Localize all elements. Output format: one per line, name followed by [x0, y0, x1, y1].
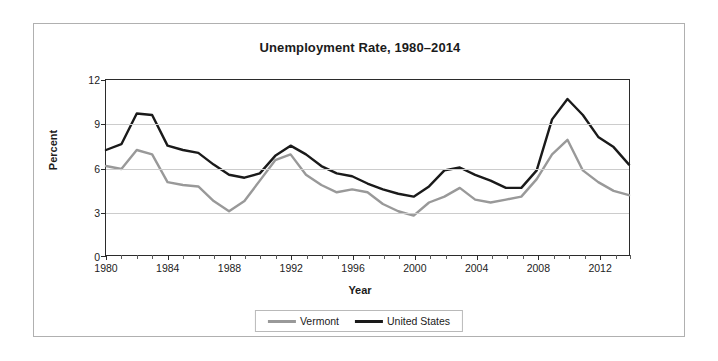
- x-tick-mark-2008: [538, 255, 539, 260]
- x-tick-label-1992: 1992: [280, 262, 303, 274]
- chart-title: Unemployment Rate, 1980–2014: [34, 40, 686, 55]
- y-tick-mark-12: [101, 80, 106, 81]
- x-tick-mark-2010: [569, 255, 570, 259]
- x-tick-mark-1996: [353, 255, 354, 260]
- x-tick-mark-2013: [616, 255, 617, 259]
- x-tick-mark-2014: [630, 255, 631, 259]
- y-gridline-9: [106, 124, 629, 125]
- y-tick-mark-6: [101, 169, 106, 170]
- x-tick-label-1984: 1984: [156, 262, 179, 274]
- x-tick-mark-1987: [214, 255, 215, 259]
- x-tick-mark-1993: [307, 255, 308, 259]
- y-gridline-3: [106, 213, 629, 214]
- x-tick-mark-2009: [554, 255, 555, 259]
- y-tick-label-9: 9: [94, 118, 100, 130]
- x-tick-mark-1997: [369, 255, 370, 259]
- x-tick-mark-1992: [291, 255, 292, 260]
- legend-label: United States: [387, 315, 450, 327]
- x-tick-mark-2004: [477, 255, 478, 260]
- plot-area: 0369121980198419881992199620002004200820…: [105, 79, 630, 256]
- x-tick-mark-1980: [106, 255, 107, 260]
- x-tick-mark-2002: [446, 255, 447, 259]
- x-tick-label-2008: 2008: [527, 262, 550, 274]
- x-tick-mark-2011: [585, 255, 586, 259]
- x-tick-mark-2003: [461, 255, 462, 259]
- y-tick-mark-3: [101, 213, 106, 214]
- x-tick-label-2004: 2004: [465, 262, 488, 274]
- x-tick-mark-2007: [523, 255, 524, 259]
- x-tick-mark-1995: [338, 255, 339, 259]
- legend-entry-united-states[interactable]: United States: [355, 315, 450, 327]
- y-tick-label-3: 3: [94, 207, 100, 219]
- x-tick-mark-2006: [507, 255, 508, 259]
- x-tick-mark-2012: [600, 255, 601, 260]
- y-gridline-6: [106, 169, 629, 170]
- legend-entry-vermont[interactable]: Vermont: [268, 315, 339, 327]
- y-tick-label-12: 12: [88, 74, 100, 86]
- chart-legend: VermontUnited States: [255, 310, 463, 332]
- x-tick-label-1996: 1996: [341, 262, 364, 274]
- x-axis-title: Year: [34, 284, 686, 296]
- x-tick-mark-1985: [183, 255, 184, 259]
- x-tick-mark-1982: [137, 255, 138, 259]
- x-tick-label-1988: 1988: [218, 262, 241, 274]
- series-line-united-states: [106, 99, 629, 197]
- series-lines: [106, 80, 629, 255]
- legend-swatch-icon: [268, 320, 296, 323]
- x-tick-label-1980: 1980: [94, 262, 117, 274]
- x-tick-mark-1994: [322, 255, 323, 259]
- x-tick-mark-2000: [415, 255, 416, 260]
- legend-swatch-icon: [355, 320, 383, 323]
- x-tick-label-2012: 2012: [588, 262, 611, 274]
- figure-frame: Unemployment Rate, 1980–2014 Percent 036…: [33, 23, 685, 337]
- x-tick-mark-2005: [492, 255, 493, 259]
- x-tick-mark-1984: [168, 255, 169, 260]
- y-tick-label-6: 6: [94, 163, 100, 175]
- x-tick-label-2000: 2000: [403, 262, 426, 274]
- x-tick-mark-2001: [430, 255, 431, 259]
- x-tick-mark-1999: [399, 255, 400, 259]
- y-tick-mark-9: [101, 124, 106, 125]
- x-tick-mark-1991: [276, 255, 277, 259]
- legend-label: Vermont: [300, 315, 339, 327]
- x-tick-mark-1990: [260, 255, 261, 259]
- y-axis-title: Percent: [47, 100, 59, 200]
- x-tick-mark-1998: [384, 255, 385, 259]
- x-tick-mark-1989: [245, 255, 246, 259]
- x-tick-mark-1986: [199, 255, 200, 259]
- x-tick-mark-1988: [230, 255, 231, 260]
- x-tick-mark-1981: [121, 255, 122, 259]
- x-tick-mark-1983: [152, 255, 153, 259]
